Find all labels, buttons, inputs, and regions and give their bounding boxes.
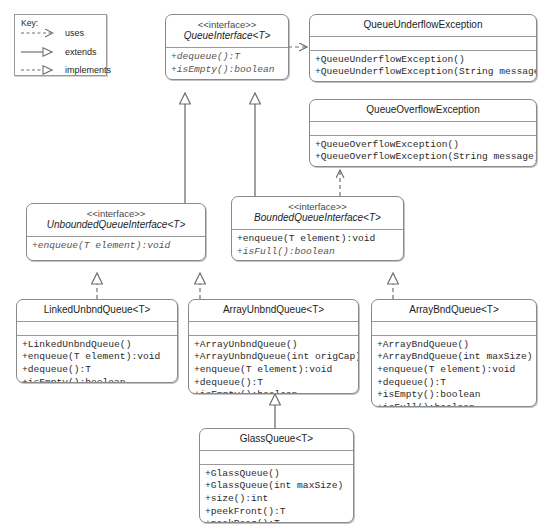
operations-compartment: +LinkedUnbndQueue() +enqueue(T element):… xyxy=(17,336,177,383)
operation: +ArrayBndQueue(int maxSize) xyxy=(377,351,531,364)
operation: +dequeue():T xyxy=(377,377,531,390)
class-header: <<interface>> BoundedQueueInterface<T> xyxy=(232,197,403,229)
operations-compartment: +GlassQueue() +GlassQueue(int maxSize) +… xyxy=(200,465,353,523)
operation: +isFull():boolean xyxy=(377,402,531,407)
operation: +isEmpty():boolean xyxy=(194,389,353,394)
operation: +peekFront():T xyxy=(205,506,348,519)
class-box-queue-interface[interactable]: <<interface>> QueueInterface<T> +dequeue… xyxy=(165,14,289,80)
class-header: ArrayBndQueue<T> xyxy=(372,300,536,321)
operation: +dequeue():T xyxy=(194,377,353,390)
class-box-array-unbnd-queue[interactable]: ArrayUnbndQueue<T> +ArrayUnbndQueue() +A… xyxy=(188,299,359,394)
operation: +ArrayUnbndQueue() xyxy=(194,339,353,352)
class-stereotype: <<interface>> xyxy=(236,201,399,212)
operation: +dequeue():T xyxy=(171,51,283,64)
class-name: LinkedUnbndQueue<T> xyxy=(21,304,173,316)
operation: +dequeue():T xyxy=(22,364,172,377)
attributes-compartment xyxy=(310,37,536,50)
operations-compartment: +ArrayUnbndQueue() +ArrayUnbndQueue(int … xyxy=(189,336,358,394)
operation: +isEmpty():boolean xyxy=(22,377,172,383)
operations-compartment: +dequeue():T +isEmpty():boolean xyxy=(166,48,288,80)
operations-compartment: +QueueOverflowException() +QueueOverflow… xyxy=(310,136,536,167)
operation: +ArrayUnbndQueue(int origCap) xyxy=(194,351,353,364)
operation: +ArrayBndQueue() xyxy=(377,339,531,352)
operation: +isEmpty():boolean xyxy=(377,389,531,402)
operation: +QueueUnderflowException() xyxy=(315,54,531,67)
legend-label-uses: uses xyxy=(65,28,84,38)
operation: +enqueue(T element):void xyxy=(32,240,200,253)
legend-key: Key: uses extends implements xyxy=(14,14,107,76)
attributes-compartment xyxy=(310,122,536,135)
class-name: ArrayUnbndQueue<T> xyxy=(193,304,354,316)
class-header: GlassQueue<T> xyxy=(200,429,353,450)
class-stereotype: <<interface>> xyxy=(170,19,284,30)
class-header: QueueOverflowException xyxy=(310,100,536,121)
class-box-queue-overflow-exception[interactable]: QueueOverflowException +QueueOverflowExc… xyxy=(309,99,537,167)
operation: +LinkedUnbndQueue() xyxy=(22,339,172,352)
class-name: ArrayBndQueue<T> xyxy=(376,304,532,316)
class-header: <<interface>> QueueInterface<T> xyxy=(166,15,288,47)
operation: +enqueue(T element):void xyxy=(22,351,172,364)
operation: +peekRear():T xyxy=(205,518,348,523)
operation: +isFull():boolean xyxy=(237,246,398,259)
attributes-compartment xyxy=(200,451,353,464)
operation: +QueueOverflowException() xyxy=(315,139,531,152)
class-header: LinkedUnbndQueue<T> xyxy=(17,300,177,321)
class-name: GlassQueue<T> xyxy=(204,433,349,445)
legend-label-extends: extends xyxy=(65,47,97,57)
class-header: ArrayUnbndQueue<T> xyxy=(189,300,358,321)
class-stereotype: <<interface>> xyxy=(31,208,201,219)
operation: +enqueue(T element):void xyxy=(237,233,398,246)
operations-compartment: +enqueue(T element):void xyxy=(27,237,205,257)
uml-diagram-canvas: Key: uses extends implements <<interface… xyxy=(0,0,551,531)
class-header: <<interface>> UnboundedQueueInterface<T> xyxy=(27,204,205,236)
attributes-compartment xyxy=(372,322,536,335)
class-box-array-bnd-queue[interactable]: ArrayBndQueue<T> +ArrayBndQueue() +Array… xyxy=(371,299,537,407)
class-box-linked-unbnd-queue[interactable]: LinkedUnbndQueue<T> +LinkedUnbndQueue() … xyxy=(16,299,178,383)
attributes-compartment xyxy=(17,322,177,335)
operation: +QueueUnderflowException(String message) xyxy=(315,66,531,79)
class-header: QueueUnderflowException xyxy=(310,15,536,36)
class-name: QueueInterface<T> xyxy=(170,30,284,42)
operation: +enqueue(T element):void xyxy=(377,364,531,377)
operation: +GlassQueue() xyxy=(205,468,348,481)
class-name: QueueOverflowException xyxy=(314,104,532,116)
class-name: UnboundedQueueInterface<T> xyxy=(31,219,201,231)
class-box-bounded-queue-interface[interactable]: <<interface>> BoundedQueueInterface<T> +… xyxy=(231,196,404,261)
class-box-unbounded-queue-interface[interactable]: <<interface>> UnboundedQueueInterface<T>… xyxy=(26,203,206,261)
class-name: BoundedQueueInterface<T> xyxy=(236,212,399,224)
operation: +enqueue(T element):void xyxy=(194,364,353,377)
operations-compartment: +ArrayBndQueue() +ArrayBndQueue(int maxS… xyxy=(372,336,536,407)
operations-compartment: +enqueue(T element):void +isFull():boole… xyxy=(232,230,403,261)
operations-compartment: +QueueUnderflowException() +QueueUnderfl… xyxy=(310,51,536,82)
operation: +isEmpty():boolean xyxy=(171,64,283,77)
operation: +GlassQueue(int maxSize) xyxy=(205,480,348,493)
class-box-glass-queue[interactable]: GlassQueue<T> +GlassQueue() +GlassQueue(… xyxy=(199,428,354,523)
attributes-compartment xyxy=(189,322,358,335)
legend-label-implements: implements xyxy=(65,65,111,75)
operation: +size():int xyxy=(205,493,348,506)
operation: +QueueOverflowException(String message) xyxy=(315,151,531,164)
class-box-queue-underflow-exception[interactable]: QueueUnderflowException +QueueUnderflowE… xyxy=(309,14,537,82)
class-name: QueueUnderflowException xyxy=(314,19,532,31)
